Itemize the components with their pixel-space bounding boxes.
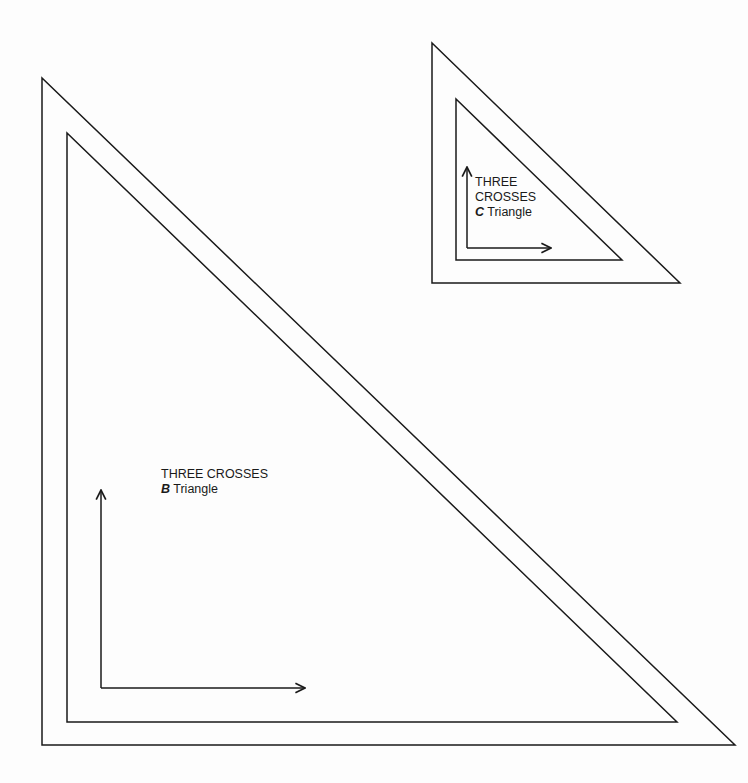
triangle-c-suffix: Triangle xyxy=(487,205,532,219)
triangle-b-suffix: Triangle xyxy=(173,482,218,496)
pattern-drawing xyxy=(0,0,748,783)
triangle-c-piece xyxy=(432,43,680,283)
triangle-c-letter: C xyxy=(475,205,484,219)
triangle-b-sew-line xyxy=(67,133,677,722)
triangle-c-subtitle: C Triangle xyxy=(475,205,536,220)
triangle-b-letter: B xyxy=(161,482,170,496)
triangle-b-label: THREE CROSSES B Triangle xyxy=(161,467,268,497)
triangle-b-subtitle: B Triangle xyxy=(161,482,268,497)
triangle-c-label: THREE CROSSES C Triangle xyxy=(475,175,536,220)
triangle-b-cut-line xyxy=(42,78,735,745)
pattern-sheet: THREE CROSSES B Triangle THREE CROSSES C… xyxy=(0,0,748,783)
triangle-c-title-line2: CROSSES xyxy=(475,190,536,205)
triangle-c-title-line1: THREE xyxy=(475,175,536,190)
triangle-b-title: THREE CROSSES xyxy=(161,467,268,482)
triangle-b-piece xyxy=(42,78,735,745)
triangle-c-cut-line xyxy=(432,43,680,283)
